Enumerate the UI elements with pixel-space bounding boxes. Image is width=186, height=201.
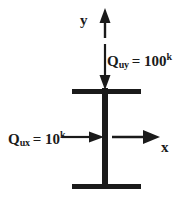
- horizontal-load-superscript: k: [60, 129, 66, 140]
- horizontal-load-arrow: [62, 132, 104, 143]
- y-axis-label: y: [80, 13, 88, 28]
- column-top-flange: [72, 89, 141, 94]
- x-axis-label: x: [161, 140, 169, 155]
- x-axis-arrow: [112, 130, 160, 144]
- vertical-load-superscript: k: [166, 51, 172, 62]
- y-axis-arrow: [100, 8, 111, 38]
- x-axis-arrowhead: [143, 130, 160, 144]
- vertical-load-label: Quy=100k: [107, 52, 172, 70]
- vertical-load-value: 100: [144, 53, 167, 69]
- diagram-canvas: [0, 0, 186, 201]
- y-axis-arrowhead: [100, 8, 111, 23]
- horizontal-load-label: Qux=10k: [8, 130, 65, 148]
- vertical-load-arrowhead: [100, 75, 111, 90]
- horizontal-load-subscript: ux: [20, 137, 30, 148]
- column-load-diagram: y x Quy=100k Qux=10k: [0, 0, 186, 201]
- horizontal-load-value: 10: [45, 131, 60, 147]
- vertical-load-symbol: Q: [107, 53, 119, 69]
- column-web: [102, 88, 108, 189]
- steel-column-i-section: [72, 88, 141, 189]
- vertical-load-subscript: uy: [119, 59, 129, 70]
- horizontal-load-arrowhead: [89, 132, 104, 143]
- column-bottom-flange: [72, 184, 141, 189]
- horizontal-load-equals: =: [33, 131, 42, 147]
- horizontal-load-symbol: Q: [8, 131, 20, 147]
- vertical-load-equals: =: [132, 53, 141, 69]
